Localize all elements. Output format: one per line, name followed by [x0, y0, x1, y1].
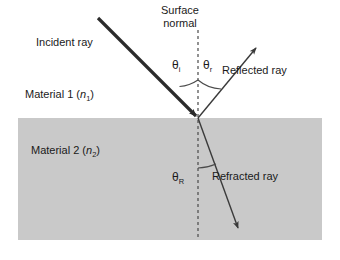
- surface-normal-line1: Surface: [161, 4, 199, 16]
- material-2-label: Material 2 (n2): [31, 144, 100, 158]
- material-1-suffix: ): [90, 88, 94, 100]
- material-1-prefix: Material 1 (: [25, 88, 80, 100]
- theta-refracted-subscript: R: [179, 177, 184, 186]
- theta-refracted-label: θR: [172, 170, 184, 184]
- surface-normal-label: Surface normal: [161, 4, 199, 30]
- incident-ray-arrow: [98, 18, 196, 116]
- material-1-subscript: 1: [86, 94, 90, 103]
- incident-ray-label: Incident ray: [36, 36, 93, 49]
- reflected-ray-label: Reflected ray: [222, 64, 287, 77]
- material-1-label: Material 1 (n1): [25, 88, 94, 102]
- theta-refracted-symbol: θ: [172, 170, 179, 184]
- theta-reflected-label: θr: [203, 58, 212, 72]
- theta-incident-arc: [180, 80, 199, 87]
- theta-reflected-arc: [198, 80, 221, 89]
- surface-normal-line2: normal: [163, 17, 197, 29]
- material-2-subscript: 2: [92, 150, 96, 159]
- theta-incident-symbol: θ: [172, 58, 179, 72]
- material-2-prefix: Material 2 (: [31, 144, 86, 156]
- material-2-suffix: ): [96, 144, 100, 156]
- theta-reflected-symbol: θ: [203, 58, 210, 72]
- refracted-ray-label: Refracted ray: [212, 170, 278, 183]
- theta-incident-label: θi: [172, 58, 180, 72]
- refraction-diagram: Surface normal Incident ray Reflected ra…: [0, 0, 340, 260]
- theta-reflected-subscript: r: [210, 65, 213, 74]
